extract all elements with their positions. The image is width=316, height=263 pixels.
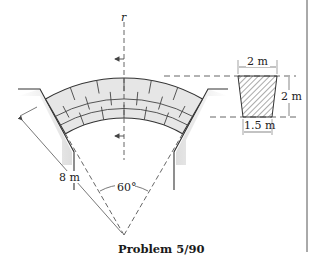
section-height-label: 2 m (281, 90, 302, 103)
cross-section: 2 m 2 m 1.5 m (238, 55, 306, 135)
axis-label-r: r (121, 11, 127, 24)
section-bottom-width-label: 1.5 m (244, 119, 276, 132)
radius-label: 8 m (59, 171, 80, 184)
section-top-width-label: 2 m (247, 55, 268, 68)
arch-diagram: r 8 m 60° 2 m 2 m (0, 0, 316, 263)
angle-label: 60° (117, 181, 137, 194)
angle-dimension: 60° (100, 181, 148, 194)
figure-caption: Problem 5/90 (118, 242, 204, 256)
